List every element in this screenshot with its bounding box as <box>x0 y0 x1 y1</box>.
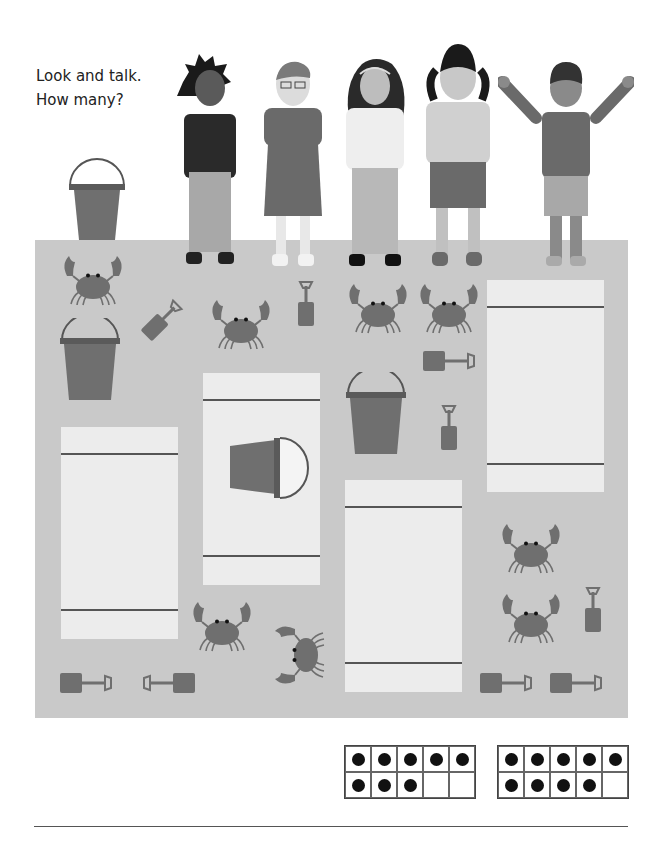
beach-towel <box>61 427 178 639</box>
spade-icon-horizontal <box>59 670 113 696</box>
beach-towel <box>345 480 462 692</box>
spade-icon-horizontal <box>549 670 603 696</box>
bucket-icon <box>344 372 408 456</box>
spade-icon-horizontal <box>479 670 533 696</box>
crab-icon <box>209 298 273 352</box>
child-glasses <box>258 56 328 268</box>
child-spiky-hair <box>175 52 245 268</box>
spade-icon-horizontal-flipped <box>142 670 196 696</box>
child-waving <box>498 60 634 268</box>
ten-frame-2 <box>497 745 629 799</box>
instruction-line-2: How many? <box>36 88 142 112</box>
spade-icon <box>578 586 608 636</box>
crab-icon <box>417 282 481 336</box>
spade-icon <box>291 280 321 330</box>
crab-icon-rotated <box>273 623 327 687</box>
bucket-icon-sideways <box>228 436 312 500</box>
instruction-text: Look and talk. How many? <box>36 64 142 112</box>
crab-icon <box>190 600 254 654</box>
instruction-line-1: Look and talk. <box>36 64 142 88</box>
crab-icon <box>61 254 125 308</box>
bucket-icon <box>58 318 122 402</box>
footer-divider <box>34 826 628 827</box>
crab-icon <box>499 592 563 646</box>
crab-icon <box>346 282 410 336</box>
crab-icon <box>499 522 563 576</box>
bucket-icon <box>66 158 128 242</box>
spade-icon-diagonal <box>136 296 186 346</box>
child-pigtails <box>420 44 496 268</box>
child-curly-hair <box>340 54 410 268</box>
spade-icon-horizontal <box>422 348 476 374</box>
beach-scene <box>35 240 628 718</box>
ten-frame-1 <box>344 745 476 799</box>
spade-icon <box>434 404 464 454</box>
beach-towel <box>487 280 604 492</box>
